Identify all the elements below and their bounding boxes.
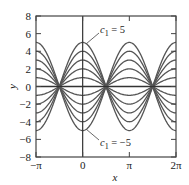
- y-tick-label: 6: [26, 28, 32, 40]
- x-tick-label: 2π: [170, 159, 182, 171]
- y-tick-label: −2: [19, 98, 31, 110]
- x-tick-label: π: [127, 159, 133, 171]
- x-tick-label: −π: [30, 159, 42, 171]
- y-tick-label: 4: [26, 45, 32, 57]
- y-tick-label: −6: [19, 133, 31, 145]
- x-axis-label: x: [112, 171, 118, 183]
- annotation-label: c1 = −5: [100, 137, 131, 151]
- cosine-family-chart: 86420−2−4−6−8 −π0π2π x y c1 = 5c1 = −5: [0, 0, 189, 185]
- y-tick-labels: 86420−2−4−6−8: [19, 10, 31, 163]
- x-tick-labels: −π0π2π: [30, 159, 182, 171]
- y-tick-label: 2: [26, 63, 32, 75]
- x-tick-label: 0: [80, 159, 86, 171]
- y-tick-label: −4: [19, 116, 31, 128]
- y-axis-label: y: [6, 84, 18, 90]
- y-tick-label: 8: [26, 10, 32, 22]
- y-tick-label: 0: [26, 81, 32, 93]
- annotation-label: c1 = 5: [100, 24, 125, 38]
